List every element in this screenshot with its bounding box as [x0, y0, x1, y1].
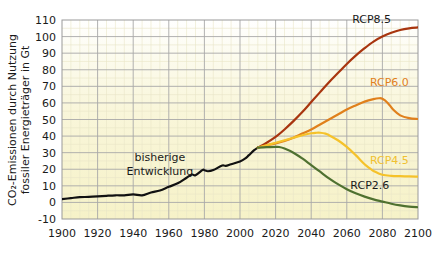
- chart-annotations: bisherigeEntwicklung: [127, 151, 194, 178]
- x-tick-label: 2100: [404, 227, 432, 240]
- x-tick-label: 2060: [333, 227, 361, 240]
- series-label-rcp6-0: RCP6.0: [370, 76, 409, 89]
- y-tick-label: 50: [42, 114, 56, 127]
- y-tick-label: 110: [35, 14, 56, 27]
- x-tick-label: 1960: [155, 227, 183, 240]
- series-label-rcp2-6: RCP2.6: [350, 179, 389, 192]
- x-tick-label: 2040: [297, 227, 325, 240]
- x-tick-label: 2080: [368, 227, 396, 240]
- y-axis-title-line2: fossiler Energieträger in Gt: [19, 45, 32, 194]
- x-tick-label: 1980: [190, 227, 218, 240]
- series-label-rcp4-5: RCP4.5: [370, 154, 409, 167]
- historical-annotation-line2: Entwicklung: [127, 165, 194, 178]
- y-axis-tick-labels: -100102030405060708090100110: [35, 14, 56, 226]
- x-tick-label: 1940: [119, 227, 147, 240]
- y-axis-title: CO₂-Emissionen durch Nutzung fossiler En…: [6, 34, 32, 206]
- y-tick-label: 20: [42, 163, 56, 176]
- y-tick-label: 90: [42, 47, 56, 60]
- x-tick-label: 2020: [262, 227, 290, 240]
- x-tick-label: 2000: [226, 227, 254, 240]
- y-tick-label: 0: [49, 196, 56, 209]
- series-label-rcp8-5: RCP8.5: [352, 13, 391, 26]
- historical-annotation-line1: bisherige: [134, 151, 185, 164]
- co2-emissions-chart: 1900192019401960198020002020204020602080…: [0, 0, 442, 261]
- x-axis-tick-labels: 1900192019401960198020002020204020602080…: [48, 227, 432, 240]
- y-tick-label: -10: [38, 213, 56, 226]
- y-tick-label: 100: [35, 31, 56, 44]
- chart-canvas: 1900192019401960198020002020204020602080…: [0, 0, 442, 261]
- y-tick-label: 40: [42, 130, 56, 143]
- x-tick-label: 1900: [48, 227, 76, 240]
- x-tick-label: 1920: [84, 227, 112, 240]
- y-tick-label: 80: [42, 64, 56, 77]
- y-axis-title-line1: CO₂-Emissionen durch Nutzung: [6, 34, 19, 206]
- y-tick-label: 70: [42, 80, 56, 93]
- y-tick-label: 60: [42, 97, 56, 110]
- y-tick-label: 10: [42, 180, 56, 193]
- y-tick-label: 30: [42, 147, 56, 160]
